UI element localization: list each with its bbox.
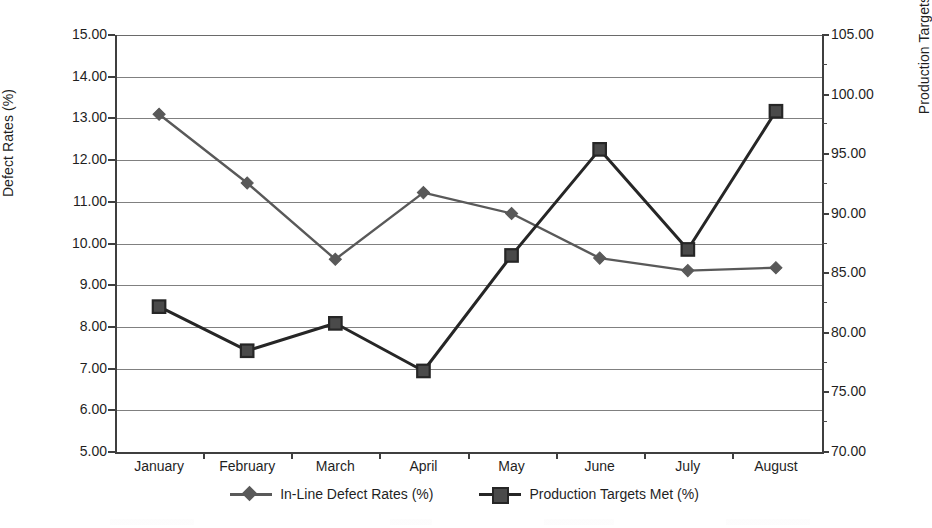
y-axis-left-tick-label: 15.00 [29, 27, 115, 41]
y-axis-left-ticks: 5.006.007.008.009.0010.0011.0012.0013.00… [20, 0, 115, 528]
y-axis-left-tick-mark [108, 409, 115, 411]
y-axis-right-tick-mark [822, 34, 829, 36]
y-axis-left-tick-mark [108, 284, 115, 286]
legend-label: In-Line Defect Rates (%) [280, 486, 433, 502]
y-axis-right-tick-label: 105.00 [822, 27, 912, 41]
y-axis-left-tick-label: 7.00 [29, 361, 115, 375]
chart-legend: In-Line Defect Rates (%)Production Targe… [0, 486, 929, 502]
y-axis-right-tick-label: 100.00 [822, 87, 912, 101]
y-axis-right-minor-tick [822, 362, 827, 363]
legend-diamond-icon [230, 487, 272, 501]
y-axis-right-tick-label: 75.00 [822, 384, 912, 398]
y-axis-right-tick-mark [822, 94, 829, 96]
gridline [117, 35, 822, 36]
gridline [117, 77, 822, 78]
y-axis-left-tick-mark [108, 76, 115, 78]
y-axis-left-title: Defect Rates (%) [0, 43, 16, 243]
y-axis-left-tick-label: 8.00 [29, 319, 115, 333]
legend-square-icon [479, 487, 521, 501]
x-axis-label: August [732, 458, 820, 474]
y-axis-right-tick-label: 85.00 [822, 265, 912, 279]
x-axis-label: May [468, 458, 556, 474]
y-axis-right-minor-tick [822, 183, 827, 184]
gridline [117, 285, 822, 286]
gridline [117, 118, 822, 119]
y-axis-left-tick-label: 5.00 [29, 444, 115, 458]
y-axis-left-tick-label: 14.00 [29, 69, 115, 83]
y-axis-left-tick-mark [108, 451, 115, 453]
y-axis-left-tick-label: 12.00 [29, 152, 115, 166]
x-axis-label: June [556, 458, 644, 474]
x-axis-label: March [291, 458, 379, 474]
y-axis-right-minor-tick [822, 421, 827, 422]
gridline [117, 369, 822, 370]
x-axis-label: April [379, 458, 467, 474]
plot-area [115, 35, 824, 454]
y-axis-right-minor-tick [822, 302, 827, 303]
y-axis-right-tick-mark [822, 332, 829, 334]
y-axis-left-tick-label: 6.00 [29, 402, 115, 416]
y-axis-right-minor-tick [822, 243, 827, 244]
gridline [117, 202, 822, 203]
y-axis-right-tick-mark [822, 272, 829, 274]
y-axis-right-ticks: 70.0075.0080.0085.0090.0095.00100.00105.… [822, 0, 917, 528]
x-axis-label: February [203, 458, 291, 474]
y-axis-right-minor-tick [822, 64, 827, 65]
y-axis-left-tick-mark [108, 243, 115, 245]
y-axis-left-tick-label: 10.00 [29, 236, 115, 250]
y-axis-right-tick-mark [822, 451, 829, 453]
y-axis-left-tick-mark [108, 201, 115, 203]
y-axis-left-tick-mark [108, 368, 115, 370]
y-axis-left-tick-label: 11.00 [29, 194, 115, 208]
y-axis-left-tick-mark [108, 159, 115, 161]
gridline [117, 160, 822, 161]
y-axis-left-tick-mark [108, 117, 115, 119]
legend-label: Production Targets Met (%) [529, 486, 698, 502]
y-axis-left-tick-mark [108, 34, 115, 36]
y-axis-left-tick-label: 9.00 [29, 277, 115, 291]
gridline [117, 244, 822, 245]
y-axis-right-tick-label: 95.00 [822, 146, 912, 160]
bottom-artifact [110, 519, 810, 525]
y-axis-left-tick-label: 13.00 [29, 110, 115, 124]
y-axis-right-tick-mark [822, 213, 829, 215]
legend-item[interactable]: In-Line Defect Rates (%) [230, 486, 433, 502]
x-axis-label: January [115, 458, 203, 474]
gridline [117, 327, 822, 328]
y-axis-right-title: Production Targets (%) [916, 0, 932, 142]
y-axis-right-minor-tick [822, 123, 827, 124]
y-axis-right-tick-label: 90.00 [822, 206, 912, 220]
x-axis-label: July [644, 458, 732, 474]
y-axis-left-tick-mark [108, 326, 115, 328]
y-axis-right-tick-label: 70.00 [822, 444, 912, 458]
y-axis-right-tick-label: 80.00 [822, 325, 912, 339]
y-axis-right-tick-mark [822, 153, 829, 155]
legend-item[interactable]: Production Targets Met (%) [479, 486, 698, 502]
gridline [117, 410, 822, 411]
y-axis-right-tick-mark [822, 391, 829, 393]
